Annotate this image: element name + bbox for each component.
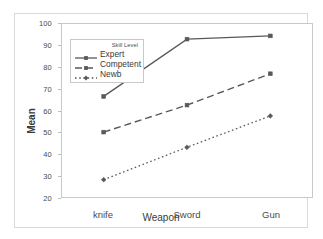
y-tick-label: 90	[43, 40, 52, 49]
y-tick-label: 70	[43, 84, 52, 93]
data-point	[102, 130, 106, 134]
data-point	[185, 37, 189, 41]
y-tick-mark	[58, 45, 61, 46]
legend-label: Expert	[98, 49, 124, 59]
y-tick-mark	[58, 67, 61, 68]
y-tick-mark	[58, 132, 61, 133]
x-axis-label: Weapon	[15, 212, 307, 223]
legend-label: Newb	[98, 69, 121, 79]
legend-title: Skill Level	[74, 42, 140, 48]
y-tick-label: 40	[43, 150, 52, 159]
data-point	[102, 95, 106, 99]
y-tick-mark	[58, 176, 61, 177]
data-point	[185, 103, 189, 107]
y-tick-label: 50	[43, 128, 52, 137]
data-point	[185, 145, 190, 150]
y-tick-label: 30	[43, 172, 52, 181]
legend: Skill Level ExpertCompetentNewb	[70, 39, 144, 83]
data-point	[268, 34, 272, 38]
y-axis-label: Mean	[26, 108, 37, 134]
y-tick-label: 20	[43, 194, 52, 203]
y-tick-mark	[58, 198, 61, 199]
legend-item-newb: Newb	[74, 69, 140, 79]
y-tick-mark	[58, 23, 61, 24]
y-tick-label: 80	[43, 62, 52, 71]
data-point	[101, 177, 106, 182]
chart-screenshot: Mean 2030405060708090100 knifeSwordGun S…	[0, 0, 323, 239]
y-tick-mark	[58, 89, 61, 90]
legend-item-expert: Expert	[74, 49, 140, 59]
legend-label: Competent	[98, 59, 141, 69]
data-point	[268, 114, 273, 119]
legend-key-icon	[74, 59, 98, 69]
y-tick-label: 100	[39, 19, 52, 28]
y-tick-mark	[58, 111, 61, 112]
y-tick-mark	[58, 154, 61, 155]
legend-key-icon	[74, 49, 98, 59]
figure-frame: Mean 2030405060708090100 knifeSwordGun S…	[14, 13, 308, 228]
data-point	[268, 72, 272, 76]
legend-item-competent: Competent	[74, 59, 140, 69]
y-tick-label: 60	[43, 106, 52, 115]
legend-key-icon	[74, 69, 98, 79]
